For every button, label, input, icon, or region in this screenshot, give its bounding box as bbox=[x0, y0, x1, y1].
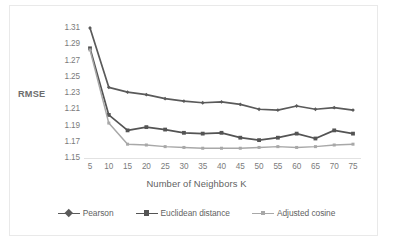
data-point bbox=[351, 108, 355, 112]
x-tick-label: 20 bbox=[142, 163, 151, 171]
data-point bbox=[182, 99, 186, 103]
x-axis-baseline bbox=[84, 158, 361, 159]
data-point bbox=[182, 146, 185, 149]
y-axis-tick-labels: 1.311.291.271.251.231.211.191.171.15 bbox=[52, 28, 80, 158]
data-point bbox=[201, 132, 205, 136]
x-tick-label: 35 bbox=[198, 163, 207, 171]
data-point bbox=[333, 144, 336, 147]
data-point bbox=[144, 93, 148, 97]
x-tick-label: 5 bbox=[88, 163, 92, 171]
data-point bbox=[88, 26, 92, 30]
x-tick-label: 40 bbox=[217, 163, 226, 171]
x-tick-label: 10 bbox=[104, 163, 113, 171]
legend-swatch-icon bbox=[58, 209, 80, 218]
y-tick-label: 1.19 bbox=[52, 121, 80, 129]
x-tick-label: 55 bbox=[273, 163, 282, 171]
data-point bbox=[220, 100, 224, 104]
x-tick-label: 15 bbox=[123, 163, 132, 171]
data-point bbox=[351, 132, 355, 136]
data-point bbox=[163, 97, 167, 101]
series-pearson bbox=[88, 26, 355, 112]
data-point bbox=[314, 137, 318, 141]
data-point bbox=[295, 104, 299, 108]
chart-figure: 1.311.291.271.251.231.211.191.171.15 RMS… bbox=[0, 0, 393, 242]
legend-item-adjusted-cosine[interactable]: Adjusted cosine bbox=[252, 208, 335, 218]
data-point bbox=[295, 146, 298, 149]
data-point bbox=[164, 145, 167, 148]
data-point bbox=[107, 122, 110, 125]
y-tick-label: 1.21 bbox=[52, 105, 80, 113]
data-point bbox=[163, 128, 167, 132]
data-point bbox=[126, 90, 130, 94]
legend-item-euclidean-distance[interactable]: Euclidean distance bbox=[136, 208, 230, 218]
data-point bbox=[220, 131, 224, 135]
data-point bbox=[238, 102, 242, 106]
legend-swatch-icon bbox=[252, 209, 274, 218]
data-point bbox=[126, 128, 130, 132]
series-line bbox=[90, 28, 353, 110]
x-axis-tick-labels: 51015202530354045505560657075 bbox=[84, 163, 359, 175]
y-tick-label: 1.15 bbox=[52, 154, 80, 162]
data-point bbox=[182, 131, 186, 135]
legend-item-pearson[interactable]: Pearson bbox=[58, 208, 114, 218]
x-tick-label: 30 bbox=[179, 163, 188, 171]
x-axis-title: Number of Neighbors K bbox=[0, 178, 393, 189]
x-tick-label: 60 bbox=[292, 163, 301, 171]
data-point bbox=[145, 144, 148, 147]
plot-svg bbox=[84, 28, 359, 158]
data-point bbox=[257, 138, 261, 142]
data-point bbox=[107, 85, 111, 89]
data-point bbox=[314, 145, 317, 148]
data-point bbox=[276, 108, 280, 112]
data-point bbox=[144, 125, 148, 129]
x-tick-label: 45 bbox=[236, 163, 245, 171]
y-tick-label: 1.25 bbox=[52, 73, 80, 81]
x-tick-label: 25 bbox=[161, 163, 170, 171]
legend-label: Adjusted cosine bbox=[277, 208, 335, 218]
y-tick-label: 1.31 bbox=[52, 24, 80, 32]
data-point bbox=[201, 101, 205, 105]
data-point bbox=[314, 107, 318, 111]
x-tick-label: 65 bbox=[311, 163, 320, 171]
x-tick-label: 70 bbox=[330, 163, 339, 171]
data-point bbox=[332, 106, 336, 110]
data-point bbox=[126, 143, 129, 146]
legend-label: Pearson bbox=[83, 208, 114, 218]
chart-legend: PearsonEuclidean distanceAdjusted cosine bbox=[0, 208, 393, 218]
data-point bbox=[295, 132, 299, 136]
data-point bbox=[238, 136, 242, 140]
y-tick-label: 1.23 bbox=[52, 89, 80, 97]
data-point bbox=[276, 145, 279, 148]
data-point bbox=[239, 147, 242, 150]
legend-label: Euclidean distance bbox=[161, 208, 230, 218]
y-tick-label: 1.27 bbox=[52, 56, 80, 64]
x-tick-label: 75 bbox=[349, 163, 358, 171]
data-point bbox=[89, 48, 92, 51]
x-tick-label: 50 bbox=[255, 163, 264, 171]
series-euclidean-distance bbox=[88, 46, 355, 142]
y-axis-title: RMSE bbox=[18, 89, 45, 99]
data-point bbox=[201, 147, 204, 150]
legend-swatch-icon bbox=[136, 209, 158, 218]
data-point bbox=[220, 147, 223, 150]
series-line bbox=[90, 48, 353, 140]
data-point bbox=[332, 128, 336, 132]
data-point bbox=[258, 146, 261, 149]
data-point bbox=[257, 107, 261, 111]
y-tick-label: 1.17 bbox=[52, 138, 80, 146]
y-tick-label: 1.29 bbox=[52, 40, 80, 48]
data-point bbox=[352, 143, 355, 146]
data-point bbox=[276, 136, 280, 140]
plot-area bbox=[84, 28, 359, 158]
